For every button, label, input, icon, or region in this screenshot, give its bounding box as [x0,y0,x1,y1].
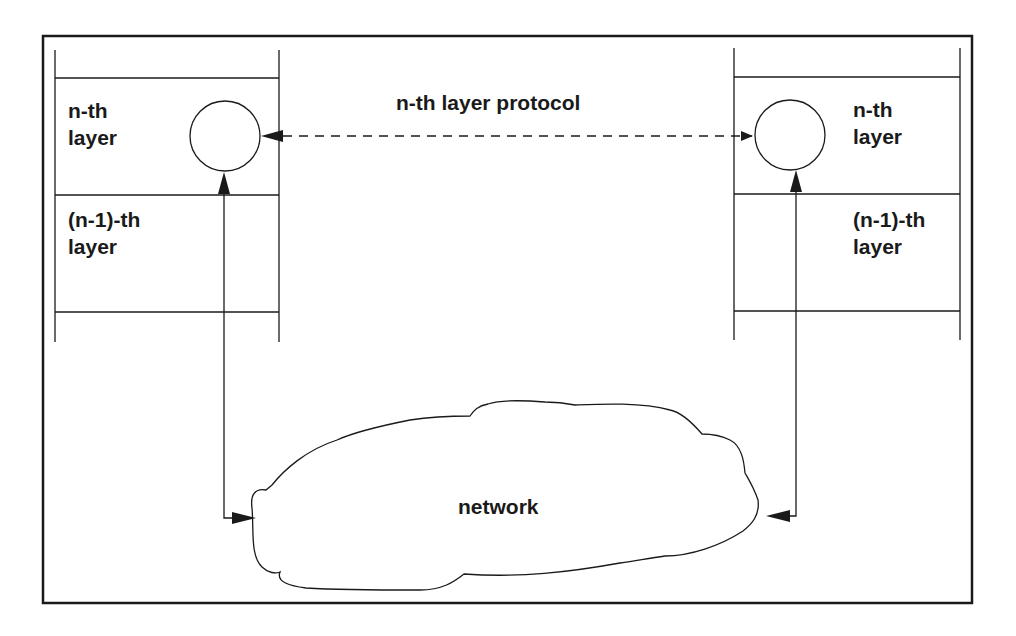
arrowhead-right-up [790,170,802,192]
protocol-label: n-th layer protocol [396,89,580,116]
left-protocol-stack [55,50,279,342]
right-lower-layer-label: (n-1)-th layer [853,206,925,260]
arrowhead-left-circle [261,130,283,142]
right-protocol-stack [734,48,960,340]
arrowhead-right-network [766,510,790,522]
arrowhead-left-up [218,172,230,194]
right-vertical-link [786,190,796,516]
right-upper-layer-label: n-th layer [853,96,902,150]
left-lower-layer-label: (n-1)-th layer [68,206,140,260]
right-entity-circle [755,100,825,170]
left-upper-layer-label: n-th layer [68,97,117,151]
left-vertical-link [224,192,236,518]
left-entity-circle [190,101,260,171]
network-label: network [458,493,539,520]
